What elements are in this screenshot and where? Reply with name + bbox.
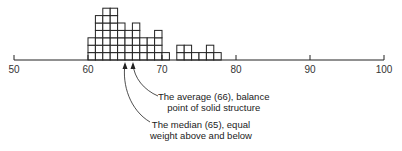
unit-square xyxy=(110,30,117,37)
unit-square xyxy=(132,53,139,60)
axis-tick-label: 100 xyxy=(376,64,393,75)
unit-square xyxy=(132,45,139,52)
unit-square xyxy=(206,53,213,60)
unit-square xyxy=(110,23,117,30)
unit-square xyxy=(110,8,117,15)
axis-tick-label: 90 xyxy=(304,64,316,75)
unit-square xyxy=(132,30,139,37)
unit-square xyxy=(125,45,132,52)
median-annotation: The median (65), equal weight above and … xyxy=(150,119,252,141)
unit-square xyxy=(199,53,206,60)
unit-square xyxy=(147,45,154,52)
annotation-arrows xyxy=(123,62,159,122)
unit-square xyxy=(177,53,184,60)
average-arrow xyxy=(133,64,158,96)
unit-square xyxy=(184,53,191,60)
unit-square xyxy=(155,45,162,52)
axis-tick-label: 70 xyxy=(156,64,168,75)
unit-square xyxy=(147,53,154,60)
axis-tick-label: 60 xyxy=(82,64,94,75)
unit-square xyxy=(110,38,117,45)
unit-square xyxy=(103,8,110,15)
unit-square xyxy=(103,16,110,23)
average-arrow-head-icon xyxy=(131,62,136,69)
unit-square xyxy=(103,30,110,37)
unit-square xyxy=(88,45,95,52)
axis-tick-label: 80 xyxy=(230,64,242,75)
unit-square xyxy=(118,38,125,45)
unit-square xyxy=(155,38,162,45)
median-annotation-line2: weight above and below xyxy=(150,130,252,141)
unit-square xyxy=(103,23,110,30)
median-arrow-head-icon xyxy=(123,62,128,69)
unit-square xyxy=(140,53,147,60)
unit-square xyxy=(95,45,102,52)
unit-square xyxy=(95,30,102,37)
unit-square xyxy=(95,53,102,60)
unit-square xyxy=(95,38,102,45)
unit-square xyxy=(192,53,199,60)
unit-square xyxy=(147,38,154,45)
unit-square xyxy=(132,23,139,30)
unit-square xyxy=(88,38,95,45)
unit-square xyxy=(155,30,162,37)
average-annotation-line1: The average (66), balance xyxy=(158,91,269,102)
unit-square xyxy=(214,53,221,60)
average-annotation-line2: point of solid structure xyxy=(158,102,269,113)
unit-square xyxy=(118,30,125,37)
unit-square xyxy=(140,38,147,45)
unit-square xyxy=(184,45,191,52)
unit-square xyxy=(110,53,117,60)
unit-square xyxy=(118,23,125,30)
unit-square xyxy=(118,53,125,60)
average-annotation: The average (66), balance point of solid… xyxy=(158,91,269,113)
unit-square xyxy=(125,53,132,60)
unit-square xyxy=(162,53,169,60)
unit-square xyxy=(132,38,139,45)
unit-square xyxy=(95,16,102,23)
median-annotation-line1: The median (65), equal xyxy=(150,119,252,130)
unit-square xyxy=(88,53,95,60)
unit-square xyxy=(140,45,147,52)
unit-square xyxy=(155,53,162,60)
unit-square xyxy=(103,38,110,45)
unit-square xyxy=(118,45,125,52)
unit-square xyxy=(103,53,110,60)
unit-square xyxy=(95,23,102,30)
axis-tick-label: 50 xyxy=(8,64,20,75)
median-arrow xyxy=(124,64,150,122)
unit-squares xyxy=(88,8,221,60)
unit-square xyxy=(177,45,184,52)
unit-square xyxy=(103,45,110,52)
unit-square xyxy=(206,45,213,52)
unit-square xyxy=(110,45,117,52)
unit-square xyxy=(125,30,132,37)
unit-square xyxy=(110,16,117,23)
unit-square xyxy=(125,38,132,45)
